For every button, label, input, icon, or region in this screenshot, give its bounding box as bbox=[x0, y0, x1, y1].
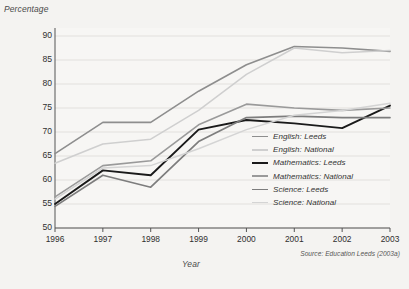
legend-item-2: Mathematics: Leeds bbox=[252, 156, 353, 169]
legend-label: Science: Leeds bbox=[273, 185, 328, 194]
legend-swatch-icon bbox=[252, 189, 268, 191]
legend-item-5: Science: National bbox=[252, 196, 353, 209]
legend-label: Mathematics: Leeds bbox=[273, 158, 346, 167]
legend-item-0: English: Leeds bbox=[252, 130, 353, 143]
legend-item-1: English: National bbox=[252, 143, 353, 156]
line-chart: Percentage Year Source: Education Leeds … bbox=[0, 0, 409, 289]
legend-swatch-icon bbox=[252, 175, 268, 177]
chart-legend: English: LeedsEnglish: NationalMathemati… bbox=[252, 130, 353, 209]
legend-label: English: National bbox=[273, 145, 334, 154]
legend-swatch-icon bbox=[252, 136, 268, 138]
legend-swatch-icon bbox=[252, 202, 268, 204]
legend-label: Mathematics: National bbox=[273, 172, 353, 181]
legend-item-4: Science: Leeds bbox=[252, 183, 353, 196]
legend-item-3: Mathematics: National bbox=[252, 170, 353, 183]
legend-label: English: Leeds bbox=[273, 132, 326, 141]
legend-swatch-icon bbox=[252, 162, 268, 164]
legend-swatch-icon bbox=[252, 149, 268, 151]
legend-label: Science: National bbox=[273, 198, 336, 207]
